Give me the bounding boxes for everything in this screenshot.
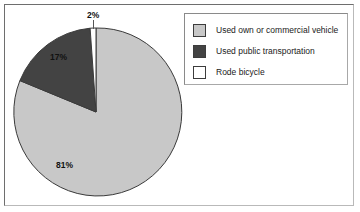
legend-swatch-transit-icon	[193, 45, 206, 58]
legend-item-bicycle[interactable]: Rode bicycle	[193, 62, 347, 82]
legend-item-transit[interactable]: Used public transportation	[193, 41, 347, 61]
legend-swatch-bicycle-icon	[193, 66, 206, 79]
pie-value-label-bicycle: 2%	[87, 10, 99, 20]
legend-item-vehicle[interactable]: Used own or commercial vehicle	[193, 20, 347, 40]
pie-value-label-transit: 17%	[50, 52, 67, 62]
legend-label-bicycle: Rode bicycle	[216, 68, 265, 77]
chart-screenshot: 81% 17% 2% Used own or commercial vehicl…	[0, 0, 360, 212]
legend-swatch-vehicle-icon	[193, 24, 206, 37]
chart-legend: Used own or commercial vehicle Used publ…	[184, 13, 348, 85]
legend-label-transit: Used public transportation	[216, 47, 315, 56]
legend-label-vehicle: Used own or commercial vehicle	[216, 26, 338, 35]
pie-value-label-vehicle: 81%	[56, 160, 73, 170]
